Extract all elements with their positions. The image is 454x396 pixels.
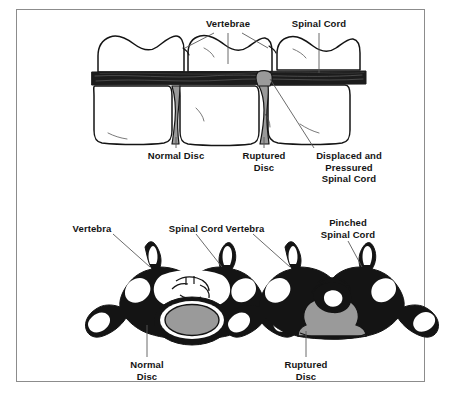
label-spinal-cord: Spinal Cord [292, 18, 346, 30]
leader-displaced-cord [270, 79, 314, 148]
cross-section-panel: Vertebra Spinal Cord Normal Disc Vertebr… [0, 205, 454, 396]
label-cross-pinched-spinal-cord: Pinched Spinal Cord [321, 217, 375, 240]
label-normal-disc: Normal Disc [148, 150, 205, 162]
leader-vertebrae-right [242, 33, 268, 48]
lateral-leader-lines [0, 0, 454, 205]
lateral-view-panel: Vertebrae Spinal Cord Normal Disc Ruptur… [0, 0, 454, 205]
leader-vertebrae-left [185, 33, 214, 48]
leader-ruptured-vertebra [253, 234, 290, 267]
label-cross-normal-spinal-cord: Spinal Cord [169, 223, 223, 235]
leader-pinched-spinal-cord [348, 241, 362, 267]
label-displaced-spinal-cord: Displaced and Pressured Spinal Cord [316, 150, 382, 185]
label-cross-ruptured-disc: Ruptured Disc [284, 359, 327, 382]
label-vertebrae: Vertebrae [206, 18, 250, 30]
label-ruptured-disc: Ruptured Disc [242, 150, 285, 173]
label-cross-normal-disc: Normal Disc [130, 359, 163, 382]
label-cross-normal-vertebra: Vertebra [73, 223, 112, 235]
spinal-disc-diagram: Vertebrae Spinal Cord Normal Disc Ruptur… [0, 0, 454, 396]
leader-normal-vertebra [113, 234, 150, 267]
leader-normal-spinal-cord [196, 234, 222, 267]
label-cross-ruptured-vertebra: Vertebra [226, 223, 265, 235]
